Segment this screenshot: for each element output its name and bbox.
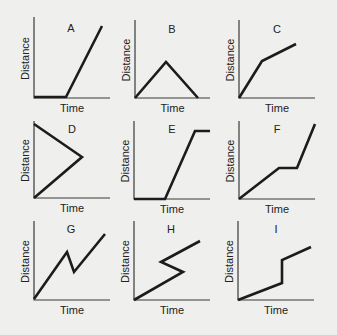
x-axis-label: Time	[60, 304, 84, 316]
distance-line	[134, 241, 200, 300]
distance-time-graphs-grid: ATimeDistanceBTimeDistanceCTimeDistanceD…	[0, 0, 337, 335]
graph-title: C	[273, 23, 281, 35]
x-axis-label: Time	[264, 304, 288, 316]
y-axis-label: Distance	[120, 39, 132, 82]
y-axis-label: Distance	[223, 240, 235, 283]
graph-i: ITimeDistance	[223, 221, 314, 316]
graph-title: D	[68, 123, 76, 135]
distance-line	[34, 26, 102, 97]
graph-d: DTimeDistance	[19, 121, 110, 214]
x-axis-label: Time	[265, 102, 289, 114]
graph-title: A	[67, 22, 75, 34]
y-axis-label: Distance	[19, 139, 31, 182]
graph-title: E	[168, 123, 175, 135]
x-axis-label: Time	[60, 202, 84, 214]
y-axis-label: Distance	[119, 240, 131, 283]
graph-g: GTimeDistance	[19, 221, 110, 316]
graph-c: CTimeDistance	[224, 20, 315, 114]
x-axis-label: Time	[160, 304, 184, 316]
y-axis-label: Distance	[19, 240, 31, 283]
y-axis-label: Distance	[119, 140, 131, 183]
x-axis-label: Time	[160, 203, 184, 215]
x-axis-label: Time	[160, 102, 184, 114]
distance-line	[34, 234, 105, 299]
graphs-canvas: ATimeDistanceBTimeDistanceCTimeDistanceD…	[0, 0, 337, 335]
graph-e: ETimeDistance	[119, 121, 210, 215]
distance-line	[34, 124, 82, 198]
distance-line	[134, 131, 210, 199]
distance-line	[135, 62, 198, 98]
graph-a: ATimeDistance	[19, 17, 110, 114]
graph-title: I	[274, 223, 277, 235]
distance-line	[239, 124, 315, 199]
graph-b: BTimeDistance	[120, 20, 210, 114]
graph-title: G	[67, 223, 76, 235]
graph-f: FTimeDistance	[224, 121, 315, 215]
graph-title: F	[274, 123, 281, 135]
x-axis-label: Time	[60, 102, 84, 114]
graph-title: B	[168, 23, 175, 35]
distance-line	[239, 44, 296, 98]
distance-line	[238, 247, 311, 300]
y-axis-label: Distance	[224, 140, 236, 183]
graph-title: H	[167, 223, 175, 235]
y-axis-label: Distance	[224, 39, 236, 82]
graph-h: HTimeDistance	[119, 221, 210, 316]
x-axis-label: Time	[265, 203, 289, 215]
y-axis-label: Distance	[19, 37, 31, 80]
